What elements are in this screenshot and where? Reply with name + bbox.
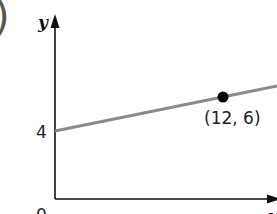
y-intercept-label: 4 [36, 122, 47, 142]
part-marker: ) [0, 0, 10, 39]
y-axis-arrow-icon [51, 14, 60, 28]
x-axis-arrow-icon [267, 195, 277, 204]
x-axis-label: x [267, 206, 277, 214]
point-label: (12, 6) [204, 108, 261, 128]
graph-canvas: ) y x 4 0 (12, 6) [0, 0, 277, 214]
point-marker [218, 92, 229, 103]
y-axis-label: y [37, 12, 49, 32]
origin-label: 0 [36, 205, 47, 214]
